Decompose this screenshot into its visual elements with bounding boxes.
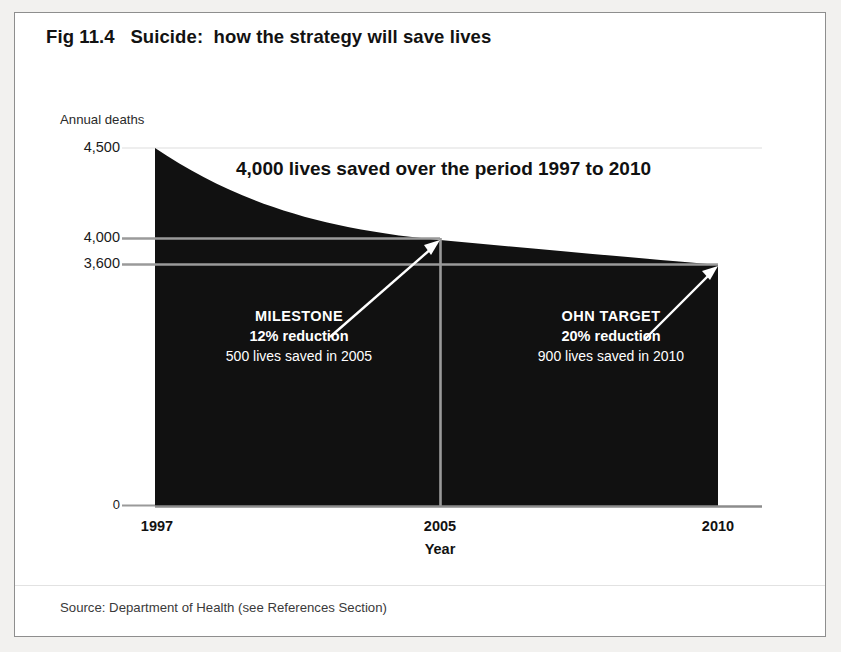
x-tick-label-2010: 2010 (690, 518, 746, 534)
milestone-heading: MILESTONE (174, 306, 424, 326)
milestone-reduction: 12% reduction (174, 326, 424, 346)
x-tick-label-1997: 1997 (129, 518, 185, 534)
x-tick-label-2005: 2005 (412, 518, 468, 534)
y-tick-label-4500: 4,500 (42, 139, 120, 155)
headline-annotation: 4,000 lives saved over the period 1997 t… (236, 158, 651, 180)
y-tick-label-4000: 4,000 (42, 229, 120, 245)
source-divider (15, 585, 825, 586)
ohn-target-reduction: 20% reduction (486, 326, 736, 346)
ohn-target-callout: OHN TARGET 20% reduction 900 lives saved… (486, 306, 736, 367)
milestone-note: 500 lives saved in 2005 (174, 346, 424, 367)
ohn-target-note: 900 lives saved in 2010 (486, 346, 736, 367)
y-tick-label-3600: 3,600 (42, 255, 120, 271)
ohn-target-heading: OHN TARGET (486, 306, 736, 326)
source-note: Source: Department of Health (see Refere… (60, 600, 387, 615)
milestone-callout: MILESTONE 12% reduction 500 lives saved … (174, 306, 424, 367)
x-axis-title: Year (412, 541, 468, 557)
y-tick-label-0: 0 (42, 497, 120, 512)
figure-container: Fig 11.4 Suicide: how the strategy will … (0, 0, 841, 652)
